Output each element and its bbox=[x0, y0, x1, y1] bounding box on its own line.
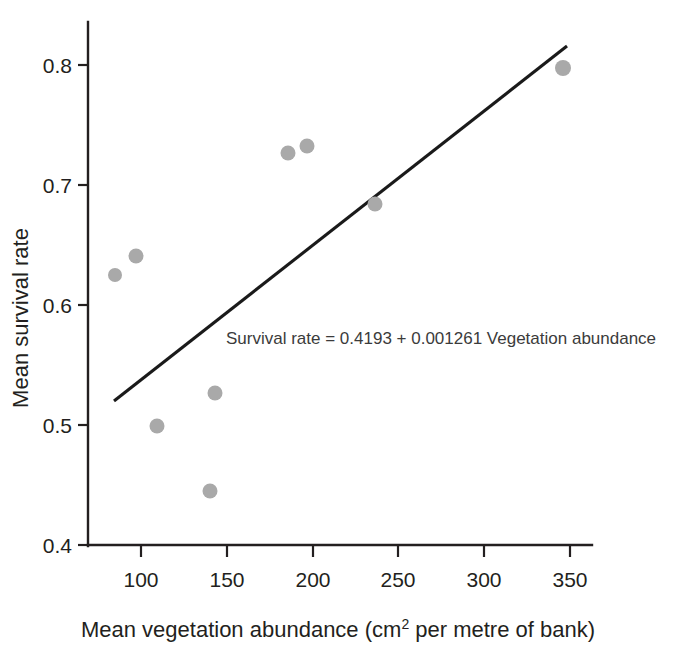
x-axis-title-superscript: 2 bbox=[401, 616, 409, 632]
data-point-marker bbox=[150, 419, 165, 434]
x-axis-title-after: per metre of bank) bbox=[409, 617, 595, 642]
y-tick-label-3: 0.5 bbox=[43, 414, 72, 437]
x-tick-label-0: 100 bbox=[123, 568, 158, 591]
x-axis-title: Mean vegetation abundance (cm2 per metre… bbox=[81, 616, 595, 642]
data-point-marker bbox=[300, 139, 315, 154]
x-tick-label-5: 350 bbox=[552, 568, 587, 591]
y-tick-label-0: 0.8 bbox=[43, 54, 72, 77]
x-axis-ticks bbox=[141, 545, 570, 557]
x-tick-label-1: 150 bbox=[209, 568, 244, 591]
x-axis-tick-labels: 100 150 200 250 300 350 bbox=[123, 568, 587, 591]
axes-group bbox=[88, 22, 592, 546]
data-point-marker bbox=[208, 386, 223, 401]
data-point-marker bbox=[555, 60, 571, 76]
scatter-plot-figure: 0.8 0.7 0.6 0.5 0.4 100 150 200 250 300 … bbox=[0, 0, 675, 655]
x-tick-label-3: 250 bbox=[380, 568, 415, 591]
x-tick-label-4: 300 bbox=[466, 568, 501, 591]
y-axis-ticks bbox=[78, 65, 88, 545]
y-axis-title: Mean survival rate bbox=[8, 228, 33, 408]
x-tick-label-2: 200 bbox=[295, 568, 330, 591]
data-point-marker bbox=[368, 197, 383, 212]
regression-equation-annotation: Survival rate = 0.4193 + 0.001261 Vegeta… bbox=[226, 329, 656, 348]
y-tick-label-1: 0.7 bbox=[43, 174, 72, 197]
x-axis-title-before: Mean vegetation abundance (cm bbox=[81, 617, 401, 642]
y-tick-label-2: 0.6 bbox=[43, 294, 72, 317]
y-tick-label-4: 0.4 bbox=[43, 534, 73, 557]
data-points-group bbox=[108, 60, 571, 499]
y-axis-tick-labels: 0.8 0.7 0.6 0.5 0.4 bbox=[43, 54, 73, 557]
data-point-marker bbox=[281, 146, 296, 161]
data-point-marker bbox=[203, 484, 218, 499]
data-point-marker bbox=[108, 268, 122, 282]
data-point-marker bbox=[129, 249, 144, 264]
chart-canvas: 0.8 0.7 0.6 0.5 0.4 100 150 200 250 300 … bbox=[0, 0, 675, 655]
